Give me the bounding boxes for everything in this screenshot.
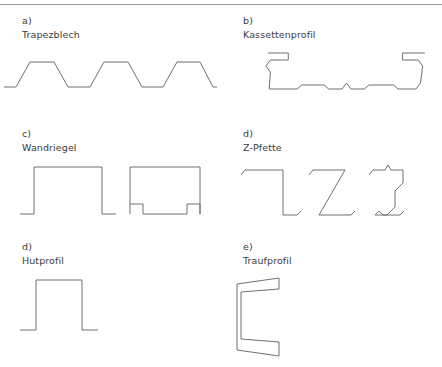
profile-index-d-z: d) — [243, 129, 253, 139]
profile-drawing-kassettenprofil — [221, 42, 442, 115]
profile-name-traufprofil: Traufprofil — [243, 256, 292, 266]
wandriegel-outline-left — [20, 167, 116, 214]
profile-name-wandriegel: Wandriegel — [22, 143, 77, 153]
profile-cell-hutprofil: d) Hutprofil — [0, 226, 221, 367]
profile-drawing-trapezblech — [0, 42, 221, 115]
hutprofil-outline — [20, 280, 98, 330]
profile-name-hutprofil: Hutprofil — [22, 256, 64, 266]
profile-drawing-traufprofil — [221, 268, 442, 367]
profile-cell-z-pfette: d) Z-Pfette — [221, 113, 442, 228]
profile-cell-traufprofil: e) Traufprofil — [221, 226, 442, 367]
profile-index-a: a) — [22, 16, 32, 26]
profile-name-z-pfette: Z-Pfette — [243, 143, 282, 153]
z-pfette-outline-3 — [369, 165, 404, 215]
traufprofil-outline — [237, 278, 279, 356]
profile-drawing-z-pfette — [221, 155, 442, 228]
z-pfette-outline-2 — [309, 170, 355, 215]
profile-cell-trapezblech: a) Trapezblech — [0, 0, 221, 115]
profile-index-e: e) — [243, 242, 253, 252]
wandriegel-outline-right — [130, 167, 200, 214]
profile-name-trapezblech: Trapezblech — [22, 30, 80, 40]
profile-drawing-hutprofil — [0, 268, 221, 367]
kassettenprofil-outline — [266, 53, 425, 89]
z-pfette-outline-1 — [241, 170, 301, 215]
profile-index-d-hut: d) — [22, 242, 32, 252]
profile-name-kassettenprofil: Kassettenprofil — [243, 30, 316, 40]
profile-cell-kassettenprofil: b) Kassettenprofil — [221, 0, 442, 115]
trapezblech-outline — [4, 62, 217, 87]
profile-index-b: b) — [243, 16, 253, 26]
profile-index-c: c) — [22, 129, 31, 139]
figure-page: a) Trapezblech b) Kassettenprofil c) Wan… — [0, 0, 442, 367]
profile-cell-wandriegel: c) Wandriegel — [0, 113, 221, 228]
profile-drawing-wandriegel — [0, 155, 221, 228]
